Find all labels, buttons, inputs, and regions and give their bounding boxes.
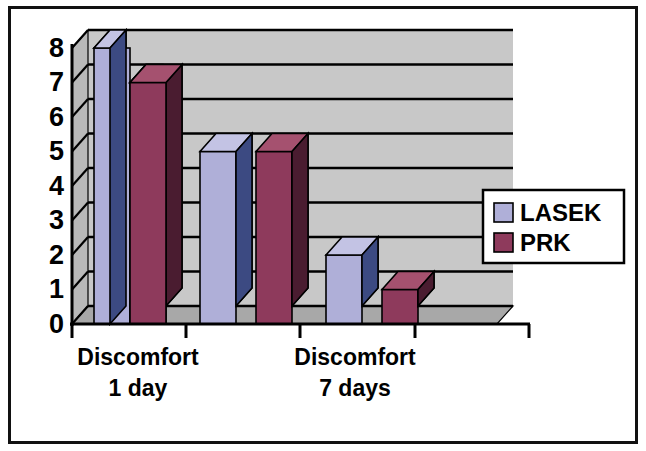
bar-lasek-group-2[interactable] (200, 134, 252, 325)
y-tick-2: 2 (49, 240, 64, 270)
y-tick-3: 3 (49, 205, 64, 235)
x-axis-category-labels: Discomfort 1 day Discomfort 7 days (77, 344, 416, 401)
legend-entry-lasek[interactable]: LASEK (494, 199, 602, 226)
y-tick-1: 1 (49, 274, 64, 304)
bar-chart-plot: 8 7 6 5 4 3 2 1 0 (0, 0, 646, 451)
category-1-line-2: 1 day (109, 375, 168, 401)
x-axis (70, 324, 530, 338)
legend-entry-prk[interactable]: PRK (494, 229, 571, 256)
legend-label-prk: PRK (520, 229, 571, 256)
legend-swatch-prk (494, 233, 513, 252)
category-2-line-2: 7 days (319, 375, 391, 401)
legend-swatch-lasek (494, 203, 513, 222)
category-1-line-1: Discomfort (77, 344, 199, 370)
bar-prk-group-2[interactable] (256, 134, 308, 325)
chart-svg: 8 7 6 5 4 3 2 1 0 (0, 0, 646, 451)
figure-canvas: 8 7 6 5 4 3 2 1 0 (0, 0, 646, 451)
y-tick-4: 4 (49, 171, 64, 201)
y-tick-0: 0 (49, 309, 64, 339)
y-tick-7: 7 (49, 67, 64, 97)
y-tick-5: 5 (49, 136, 64, 166)
chart-legend[interactable]: LASEK PRK (483, 190, 624, 263)
category-2-line-1: Discomfort (294, 344, 416, 370)
y-axis-tick-labels: 8 7 6 5 4 3 2 1 0 (49, 33, 64, 339)
legend-label-lasek: LASEK (520, 199, 602, 226)
y-tick-6: 6 (49, 102, 64, 132)
bar-prk-group-1[interactable] (130, 65, 182, 325)
bar-lasek-group-1[interactable] (94, 30, 130, 324)
y-tick-8: 8 (49, 33, 64, 63)
